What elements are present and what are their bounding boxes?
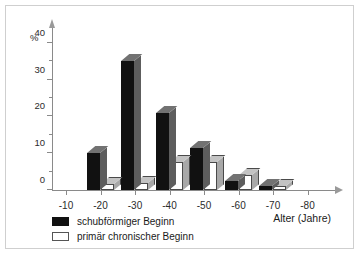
x-tick bbox=[66, 190, 67, 195]
legend-swatch-light bbox=[52, 232, 69, 241]
bar-side bbox=[169, 107, 176, 190]
bar-face bbox=[87, 153, 100, 190]
y-tick-label: 10 bbox=[34, 137, 45, 148]
x-axis-line bbox=[52, 190, 336, 191]
y-axis-line bbox=[52, 28, 53, 190]
x-tick-label: -50 bbox=[197, 200, 211, 211]
bar-side bbox=[217, 157, 224, 190]
bar-face bbox=[156, 113, 169, 190]
y-tick-label: 20 bbox=[34, 100, 45, 111]
plot-area: 010203040 -10-20-30-40-50-60-70-80 bbox=[52, 28, 342, 190]
x-tick bbox=[170, 190, 171, 195]
x-tick bbox=[239, 190, 240, 195]
y-tick-label: 0 bbox=[40, 174, 45, 185]
x-tick-label: -30 bbox=[128, 200, 142, 211]
legend-label-schubfoermiger: schubförmiger Beginn bbox=[77, 216, 174, 227]
y-tick-minor bbox=[49, 97, 52, 98]
bar-face bbox=[121, 61, 134, 190]
x-tick-label: -40 bbox=[162, 200, 176, 211]
x-tick-label: -70 bbox=[266, 200, 280, 211]
x-tick-label: -10 bbox=[59, 200, 73, 211]
y-tick-label: 30 bbox=[34, 63, 45, 74]
y-tick-major bbox=[47, 152, 52, 153]
y-tick-label: 40 bbox=[34, 26, 45, 37]
y-tick-major bbox=[47, 79, 52, 80]
x-tick-label: -80 bbox=[300, 200, 314, 211]
x-axis-title: Alter (Jahre) bbox=[273, 212, 331, 224]
y-tick-minor bbox=[49, 60, 52, 61]
bar-side bbox=[203, 142, 210, 190]
bar--20-series1 bbox=[87, 153, 100, 190]
bar--40-series1 bbox=[156, 113, 169, 190]
y-tick-major bbox=[47, 42, 52, 43]
x-tick bbox=[101, 190, 102, 195]
x-tick bbox=[135, 190, 136, 195]
y-tick-minor bbox=[49, 171, 52, 172]
figure-frame: % 010203040 -10-20-30-40-50-60-70-80 sch… bbox=[5, 5, 354, 249]
chart-figure: % 010203040 -10-20-30-40-50-60-70-80 sch… bbox=[0, 0, 359, 254]
bar-side bbox=[134, 55, 141, 190]
chart-legend: schubförmiger Beginn primär chronischer … bbox=[52, 214, 194, 244]
y-axis-arrow-icon bbox=[49, 19, 55, 28]
bar-face bbox=[225, 181, 238, 190]
x-axis-arrow-icon bbox=[335, 186, 343, 194]
legend-item-primaer-chronischer: primär chronischer Beginn bbox=[52, 229, 194, 244]
x-tick bbox=[308, 190, 309, 195]
bar-face bbox=[259, 186, 272, 190]
legend-label-primaer-chronischer: primär chronischer Beginn bbox=[77, 231, 194, 242]
bar-side bbox=[100, 147, 107, 190]
bar--60-series1 bbox=[225, 181, 238, 190]
y-tick-major bbox=[47, 115, 52, 116]
x-tick bbox=[273, 190, 274, 195]
legend-item-schubfoermiger: schubförmiger Beginn bbox=[52, 214, 194, 229]
x-tick bbox=[204, 190, 205, 195]
legend-swatch-dark bbox=[52, 217, 69, 226]
y-tick-minor bbox=[49, 134, 52, 135]
x-tick-label: -60 bbox=[231, 200, 245, 211]
bar--30-series1 bbox=[121, 61, 134, 190]
x-tick-label: -20 bbox=[93, 200, 107, 211]
y-tick-major bbox=[47, 189, 52, 190]
bar--70-series1 bbox=[259, 186, 272, 190]
